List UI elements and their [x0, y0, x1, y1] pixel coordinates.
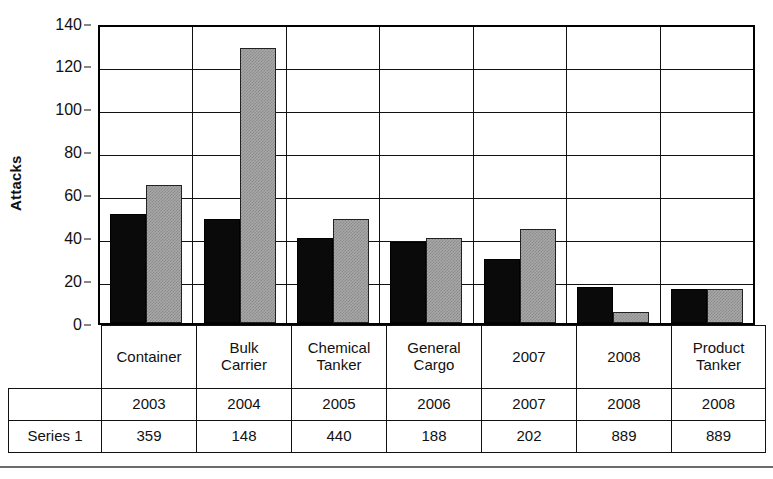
- bar-dark: [671, 289, 707, 323]
- category-label-line: Container: [104, 349, 194, 366]
- category-row-label-blank: [9, 326, 102, 389]
- bar-dark: [484, 259, 520, 323]
- category-cell: Container: [102, 326, 197, 389]
- bar-light: [146, 185, 182, 323]
- bar-light: [707, 289, 743, 323]
- table-row-years: 2003200420052006200720082008: [9, 389, 766, 421]
- series-value-cell: 359: [102, 421, 197, 453]
- series-value-cell: 148: [197, 421, 292, 453]
- y-tick-label: 80: [64, 144, 82, 161]
- y-tick-label: 20: [64, 273, 82, 290]
- y-tick-label: 140: [55, 16, 82, 33]
- category-label-line: 2008: [579, 349, 669, 366]
- year-cell: 2004: [197, 389, 292, 421]
- y-tick-100: 100: [26, 102, 82, 118]
- year-cell: 2008: [672, 389, 766, 421]
- bar-group: [474, 27, 567, 323]
- series-value-cell: 440: [292, 421, 387, 453]
- tick-dash-icon: [84, 239, 91, 240]
- bar-light: [426, 238, 462, 323]
- category-label-line: Tanker: [294, 357, 384, 374]
- category-cell: 2008: [577, 326, 672, 389]
- bar-light: [240, 48, 276, 323]
- bar-dark: [390, 242, 426, 323]
- year-cell: 2005: [292, 389, 387, 421]
- bar-dark: [110, 214, 146, 323]
- tick-dash-icon: [84, 196, 91, 197]
- tick-dash-icon: [84, 67, 91, 68]
- bar-group: [193, 27, 286, 323]
- series-value-cell: 889: [672, 421, 766, 453]
- series-value-cell: 202: [482, 421, 577, 453]
- year-cell: 2006: [387, 389, 482, 421]
- year-cell: 2008: [577, 389, 672, 421]
- bar-group: [287, 27, 380, 323]
- bar-group: [380, 27, 473, 323]
- category-cell: GeneralCargo: [387, 326, 482, 389]
- category-cell: BulkCarrier: [197, 326, 292, 389]
- y-tick-label: 40: [64, 230, 82, 247]
- year-cell: 2007: [482, 389, 577, 421]
- bar-group: [567, 27, 660, 323]
- y-tick-60: 60: [26, 188, 82, 204]
- y-axis-tick-labels: 140 120 100 80 60 40 20 0: [30, 0, 92, 340]
- y-axis-title: Attacks: [2, 128, 28, 238]
- bar-light: [613, 312, 649, 323]
- bar-light: [520, 229, 556, 323]
- series-value-cell: 889: [577, 421, 672, 453]
- year-cell: 2003: [102, 389, 197, 421]
- y-tick-label: 100: [55, 101, 82, 118]
- data-table-wrapper: ContainerBulkCarrierChemicalTankerGenera…: [0, 325, 773, 453]
- bar-dark: [297, 238, 333, 323]
- year-row-label-blank: [9, 389, 102, 421]
- bar-groups: [100, 27, 753, 323]
- category-label-line: 2007: [484, 349, 574, 366]
- bar-group: [100, 27, 193, 323]
- chart-figure: Attacks 140 120 100 80 60 40 20 0: [0, 0, 773, 479]
- y-tick-80: 80: [26, 145, 82, 161]
- category-cell: ProductTanker: [672, 326, 766, 389]
- y-tick-40: 40: [26, 231, 82, 247]
- tick-dash-icon: [84, 153, 91, 154]
- category-label-line: Chemical: [294, 340, 384, 357]
- bottom-divider: [0, 466, 773, 468]
- tick-dash-icon: [84, 110, 91, 111]
- table-row-categories: ContainerBulkCarrierChemicalTankerGenera…: [9, 326, 766, 389]
- table-row-series1: Series 1 359148440188202889889: [9, 421, 766, 453]
- bar-group: [661, 27, 753, 323]
- bar-light: [333, 219, 369, 323]
- y-tick-label: 60: [64, 187, 82, 204]
- y-tick-120: 120: [26, 59, 82, 75]
- category-label-line: Cargo: [389, 357, 479, 374]
- tick-dash-icon: [84, 282, 91, 283]
- category-label-line: Carrier: [199, 357, 289, 374]
- data-table: ContainerBulkCarrierChemicalTankerGenera…: [8, 325, 766, 453]
- category-label-line: Bulk: [199, 340, 289, 357]
- y-tick-20: 20: [26, 274, 82, 290]
- series-value-cell: 188: [387, 421, 482, 453]
- series-row-label: Series 1: [9, 421, 102, 453]
- category-label-line: Tanker: [674, 357, 763, 374]
- category-label-line: General: [389, 340, 479, 357]
- category-label-line: Product: [674, 340, 763, 357]
- category-cell: 2007: [482, 326, 577, 389]
- tick-dash-icon: [84, 25, 91, 26]
- category-cell: ChemicalTanker: [292, 326, 387, 389]
- bar-dark: [577, 287, 613, 323]
- y-tick-140: 140: [26, 17, 82, 33]
- plot-area: [98, 25, 755, 325]
- y-tick-label: 120: [55, 58, 82, 75]
- bar-dark: [204, 219, 240, 323]
